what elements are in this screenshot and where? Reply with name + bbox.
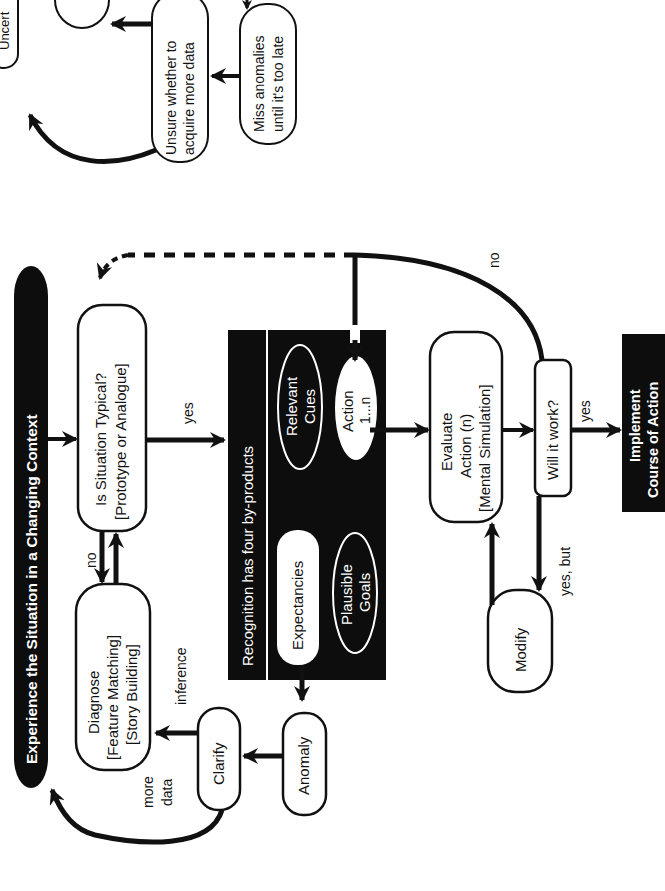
- label-data: data: [159, 779, 175, 806]
- uncertain-node-partial: Uncert: [0, 0, 18, 68]
- typical-line2: [Prototype or Analogue]: [112, 363, 129, 520]
- plausible-goals-line2: Goals: [356, 573, 373, 612]
- anomaly-label: Anomaly: [295, 736, 312, 795]
- clarify-label: Clarify: [210, 742, 227, 785]
- relevant-cues-line2: Cues: [301, 389, 318, 424]
- label-yes-typical: yes: [180, 402, 196, 424]
- will-it-work-label: Will it work?: [544, 400, 561, 480]
- implement-line2: Course of Action: [645, 382, 661, 498]
- title-pill: Experience the Situation in a Changing C…: [14, 266, 48, 788]
- action-line1: Action: [339, 390, 356, 432]
- uncertain-label: Uncert: [0, 11, 12, 50]
- label-inference: inference: [173, 647, 189, 705]
- evaluate-line1: Evaluate: [438, 413, 455, 471]
- will-it-work-node: Will it work?: [535, 360, 571, 496]
- modify-node: Modify: [488, 590, 552, 692]
- implement-node: Implement Course of Action: [622, 334, 665, 512]
- plausible-goals-line1: Plausible: [338, 564, 355, 625]
- label-yes-will: yes: [577, 400, 593, 422]
- evaluate-line3: [Mental Simulation]: [476, 384, 493, 512]
- label-no-will: no: [486, 252, 502, 268]
- arrow-more-data-loop: [52, 790, 222, 842]
- modify-label: Modify: [512, 627, 529, 672]
- unsure-line1: Unsure whether to: [163, 40, 179, 155]
- implement-line1: Implement: [627, 389, 643, 462]
- typical-line1: Is Situation Typical?: [92, 373, 109, 506]
- action-line2: 1...n: [357, 397, 373, 424]
- relevant-cues-line1: Relevant: [283, 376, 300, 436]
- miss-anomalies-line2: until it's too late: [270, 36, 286, 132]
- label-more: more: [140, 776, 156, 808]
- rpd-diagram: Uncert Unsure whether to acquire more da…: [0, 0, 665, 891]
- evaluate-line2: Action (n): [457, 414, 474, 478]
- diagnose-node: Diagnose [Feature Matching] [Story Build…: [76, 584, 150, 770]
- typical-node: Is Situation Typical? [Prototype or Anal…: [78, 305, 146, 531]
- recognition-title: Recognition has four by-products: [239, 446, 256, 666]
- expectancies-label: Expectancies: [289, 561, 306, 650]
- dashed-feedback-arrow: [100, 255, 128, 278]
- arrow-unsure-loop: [30, 115, 156, 161]
- partial-ellipse-node: [55, 0, 109, 28]
- miss-anomalies-node: Miss anomalies until it's too late: [240, 4, 296, 144]
- evaluate-node: Evaluate Action (n) [Mental Simulation]: [430, 332, 502, 522]
- title-text: Experience the Situation in a Changing C…: [23, 414, 40, 764]
- diagnose-line3: [Story Building]: [123, 644, 140, 745]
- recognition-box: Recognition has four by-products Expecta…: [228, 330, 386, 680]
- miss-anomalies-line1: Miss anomalies: [251, 36, 267, 132]
- label-no-typical: no: [83, 552, 99, 568]
- diagnose-line1: Diagnose: [85, 671, 102, 734]
- label-yes-but: yes, but: [557, 547, 573, 596]
- unsure-line2: acquire more data: [181, 42, 197, 155]
- clarify-node: Clarify: [198, 708, 240, 810]
- unsure-node: Unsure whether to acquire more data: [152, 0, 208, 162]
- anomaly-node: Anomaly: [283, 713, 326, 815]
- diagnose-line2: [Feature Matching]: [104, 635, 121, 760]
